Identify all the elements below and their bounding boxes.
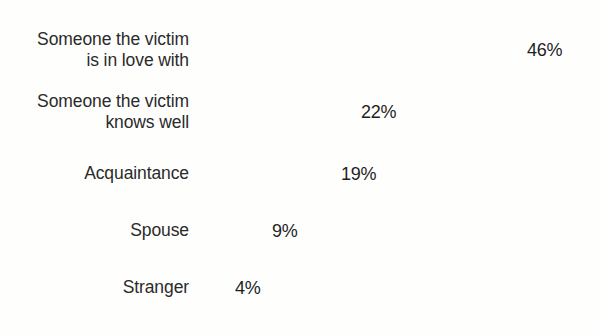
bar-container: 22% xyxy=(198,103,600,121)
bar-value-label: 46% xyxy=(520,41,562,59)
category-label: Someone the victim knows well xyxy=(0,91,198,133)
category-label: Someone the victim is in love with xyxy=(0,29,198,71)
bar-value-label: 22% xyxy=(354,103,396,121)
bar-container: 19% xyxy=(198,165,600,183)
category-label: Stranger xyxy=(0,277,198,298)
category-label: Spouse xyxy=(0,220,198,241)
chart-row: Someone the victim is in love with 46% xyxy=(0,27,600,73)
bar-container: 9% xyxy=(198,222,600,240)
bar-chart: Someone the victim is in love with 46% S… xyxy=(0,0,600,334)
bar-container: 4% xyxy=(198,279,600,297)
chart-row: Spouse 9% xyxy=(0,209,600,252)
bar-value-label: 4% xyxy=(228,279,261,297)
bar-container: 46% xyxy=(198,41,600,59)
bar-value-label: 19% xyxy=(334,165,376,183)
chart-row: Stranger 4% xyxy=(0,265,600,310)
category-label: Acquaintance xyxy=(0,163,198,184)
chart-row: Someone the victim knows well 22% xyxy=(0,89,600,134)
bar-value-label: 9% xyxy=(265,222,298,240)
chart-row: Acquaintance 19% xyxy=(0,151,600,196)
